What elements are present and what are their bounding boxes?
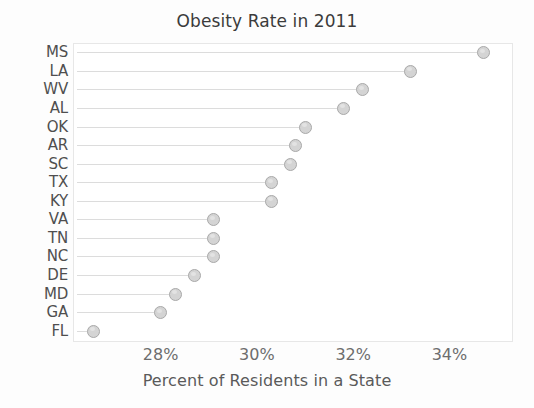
stem-line [77, 145, 293, 146]
stem-line [77, 312, 159, 313]
stem-line [77, 275, 192, 276]
y-tick-label-de: DE [0, 268, 68, 283]
data-row [74, 174, 512, 192]
stem-line [77, 164, 289, 165]
y-tick-label-tn: TN [0, 231, 68, 246]
data-point-marker[interactable] [356, 83, 369, 96]
data-row [74, 267, 512, 285]
y-tick-label-ga: GA [0, 305, 68, 320]
y-axis-label-column: MSLAWVALOKARSCTXKYVATNNCDEMDGAFL [0, 43, 68, 342]
y-tick-label-ok: OK [0, 120, 68, 135]
y-tick-label-ms: MS [0, 45, 68, 60]
data-point-marker[interactable] [337, 102, 350, 115]
y-tick-label-ar: AR [0, 138, 68, 153]
data-point-marker[interactable] [207, 213, 220, 226]
data-row [74, 137, 512, 155]
stem-line [77, 127, 303, 128]
data-point-marker[interactable] [404, 65, 417, 78]
data-point-marker[interactable] [265, 176, 278, 189]
plot-area [73, 43, 513, 342]
stem-line [77, 52, 481, 53]
data-row [74, 304, 512, 322]
data-row [74, 63, 512, 81]
data-point-marker[interactable] [477, 46, 490, 59]
x-tick-label-30: 30% [239, 346, 275, 364]
stem-line [77, 238, 212, 239]
stem-line [77, 182, 269, 183]
data-point-marker[interactable] [169, 288, 182, 301]
y-tick-label-la: LA [0, 64, 68, 79]
x-tick-label-34: 34% [432, 346, 468, 364]
y-tick-label-sc: SC [0, 157, 68, 172]
data-point-marker[interactable] [188, 269, 201, 282]
data-point-marker[interactable] [207, 232, 220, 245]
data-row [74, 230, 512, 248]
data-point-marker[interactable] [284, 158, 297, 171]
stem-line [77, 294, 173, 295]
data-point-marker[interactable] [265, 195, 278, 208]
data-row [74, 44, 512, 62]
y-tick-label-tx: TX [0, 175, 68, 190]
data-row [74, 156, 512, 174]
data-point-marker[interactable] [207, 250, 220, 263]
x-axis-title: Percent of Residents in a State [0, 371, 534, 390]
data-row [74, 119, 512, 137]
data-point-marker[interactable] [154, 306, 167, 319]
stem-line [77, 71, 409, 72]
data-row [74, 248, 512, 266]
data-row [74, 211, 512, 229]
chart-title: Obesity Rate in 2011 [0, 11, 534, 31]
x-tick-label-32: 32% [335, 346, 371, 364]
y-tick-label-va: VA [0, 212, 68, 227]
stem-line [77, 108, 342, 109]
stem-line [77, 89, 361, 90]
data-point-marker[interactable] [87, 325, 100, 338]
y-tick-label-wv: WV [0, 82, 68, 97]
y-tick-label-fl: FL [0, 324, 68, 339]
y-tick-label-nc: NC [0, 249, 68, 264]
stem-line [77, 201, 269, 202]
stem-line [77, 219, 212, 220]
data-point-marker[interactable] [299, 121, 312, 134]
data-row [74, 81, 512, 99]
x-tick-label-28: 28% [143, 346, 179, 364]
data-point-marker[interactable] [289, 139, 302, 152]
y-tick-label-md: MD [0, 287, 68, 302]
x-axis-tick-labels: 28%30%32%34% [73, 346, 513, 368]
stem-line [77, 256, 212, 257]
data-row [74, 286, 512, 304]
data-row [74, 100, 512, 118]
data-row [74, 323, 512, 341]
obesity-rate-chart: Obesity Rate in 2011 MSLAWVALOKARSCTXKYV… [0, 0, 534, 408]
y-tick-label-al: AL [0, 101, 68, 116]
data-row [74, 193, 512, 211]
y-tick-label-ky: KY [0, 194, 68, 209]
